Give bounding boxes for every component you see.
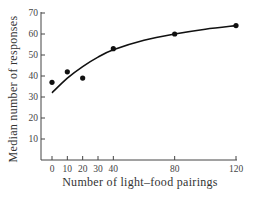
data-point (172, 31, 177, 36)
data-point (233, 23, 238, 28)
y-ticks: 10203040506070 (29, 8, 46, 144)
x-tick-label: 120 (229, 164, 244, 174)
y-tick-label: 60 (29, 29, 39, 39)
y-tick-label: 50 (29, 50, 39, 60)
x-axis-label: Number of light–food pairings (62, 175, 218, 189)
x-tick-label: 20 (78, 164, 88, 174)
x-tick-label: 40 (109, 164, 119, 174)
y-axis-label: Median number of responses (6, 16, 20, 163)
x-ticks: 01020304080120 (50, 156, 244, 174)
x-tick-label: 80 (170, 164, 180, 174)
chart: 10203040506070 01020304080120 Number of … (0, 0, 259, 197)
data-point (49, 80, 54, 85)
y-tick-label: 70 (29, 8, 39, 18)
data-point (111, 46, 116, 51)
data-point (80, 76, 85, 81)
axes: 10203040506070 01020304080120 (29, 8, 244, 174)
x-tick-label: 0 (50, 164, 55, 174)
y-tick-label: 20 (29, 113, 39, 123)
y-tick-label: 40 (29, 71, 39, 81)
x-tick-label: 30 (93, 164, 103, 174)
y-tick-label: 30 (29, 92, 39, 102)
y-tick-label: 10 (29, 134, 39, 144)
data-point (65, 69, 70, 74)
fitted-curve (52, 26, 236, 93)
data-points (49, 23, 238, 85)
x-tick-label: 10 (63, 164, 73, 174)
